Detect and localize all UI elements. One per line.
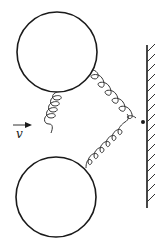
top-ball: [17, 12, 97, 92]
upper-spring: [91, 70, 136, 119]
vertical-spring: [45, 92, 62, 133]
spring-junction: [141, 120, 145, 124]
wall: [147, 44, 155, 208]
velocity-label: v: [16, 127, 23, 141]
diagram-canvas: v: [0, 0, 168, 247]
bottom-ball: [16, 157, 96, 237]
lower-spring: [86, 114, 128, 168]
